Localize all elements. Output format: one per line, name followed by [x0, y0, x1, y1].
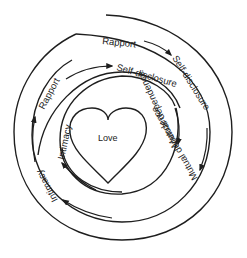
spiral-lines: [14, 15, 232, 240]
arrow-inner-rapport-to-selfdisclosure: [66, 66, 112, 79]
love-label: Love: [98, 133, 118, 143]
arrow-outer-rapport-to-selfdisclosure: [144, 41, 171, 55]
heart-shape: [70, 108, 147, 183]
inner-label-intimacy: Intimacy: [55, 123, 73, 160]
spiral-outer-arc: [14, 15, 232, 240]
outer-label-rapport: Rapport: [102, 35, 137, 50]
arrow-outer-selfdisclosure-to-mutual: [200, 128, 207, 170]
outer-label-intimacy: Intimacy: [33, 168, 59, 205]
spiral-innermost-arc: [62, 148, 122, 192]
wheel-of-love-spiral-diagram: Love Rapport Self-disclosure Mutual depe…: [0, 0, 247, 258]
